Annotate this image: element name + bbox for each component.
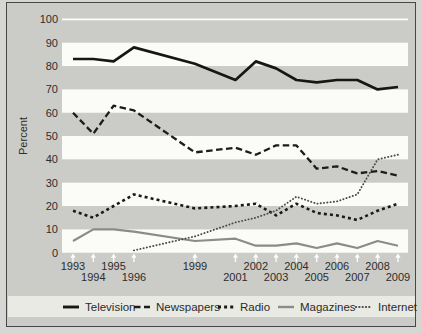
x-tick-label: 2001 [219, 271, 253, 283]
plot-band [62, 136, 408, 159]
axis-arrow-head [274, 253, 279, 257]
line-chart [0, 0, 421, 334]
legend-label: Magazines [300, 301, 356, 313]
x-tick-label: 1994 [76, 271, 110, 283]
axis-arrow-head [294, 253, 299, 257]
y-tick-label: 20 [26, 200, 58, 212]
axis-arrow-head [192, 253, 197, 257]
chart-screenshot: { "colors": { "band_white": "#fbfbf8", "… [0, 0, 421, 334]
plot-band [62, 229, 408, 252]
legend-item-internet: Internet [355, 300, 417, 314]
legend-swatch-newspapers [133, 303, 151, 311]
legend-label: Television [85, 301, 136, 313]
y-tick-label: 70 [26, 83, 58, 95]
x-tick-label: 2009 [381, 271, 415, 283]
axis-arrow-head [91, 253, 96, 257]
legend-swatch-radio [217, 303, 235, 311]
axis-arrow-head [253, 253, 258, 257]
legend-label: Radio [240, 301, 270, 313]
x-tick-label: 1999 [178, 260, 212, 272]
y-tick-label: 50 [26, 130, 58, 142]
legend-swatch-television [62, 303, 80, 311]
axis-arrow-head [395, 253, 400, 257]
x-tick-label: 1996 [117, 271, 151, 283]
axis-arrow-head [131, 253, 136, 257]
axis-arrow-head [375, 253, 380, 257]
axis-arrow-head [70, 253, 75, 257]
legend-label: Internet [378, 301, 417, 313]
legend-item-television: Television [62, 300, 136, 314]
x-tick-label: 2003 [259, 271, 293, 283]
axis-arrow-head [355, 253, 360, 257]
y-tick-label: 40 [26, 153, 58, 165]
y-tick-label: 90 [26, 37, 58, 49]
gridline-100 [62, 19, 408, 21]
legend-item-magazines: Magazines [277, 300, 356, 314]
legend-swatch-magazines [277, 303, 295, 311]
plot-band [62, 89, 408, 112]
x-tick-label: 2007 [340, 271, 374, 283]
y-tick-label: 100 [26, 13, 58, 25]
y-tick-label: 10 [26, 223, 58, 235]
y-tick-label: 30 [26, 177, 58, 189]
axis-arrow-head [111, 253, 116, 257]
legend-swatch-internet [355, 303, 373, 311]
y-tick-label: 80 [26, 60, 58, 72]
legend-item-radio: Radio [217, 300, 270, 314]
x-tick-label: 2005 [300, 271, 334, 283]
axis-arrow-head [334, 253, 339, 257]
legend-item-newspapers: Newspapers [133, 300, 220, 314]
y-tick-label: 0 [26, 247, 58, 259]
axis-arrow-head [233, 253, 238, 257]
y-tick-label: 60 [26, 107, 58, 119]
axis-arrow-head [314, 253, 319, 257]
legend-label: Newspapers [156, 301, 220, 313]
